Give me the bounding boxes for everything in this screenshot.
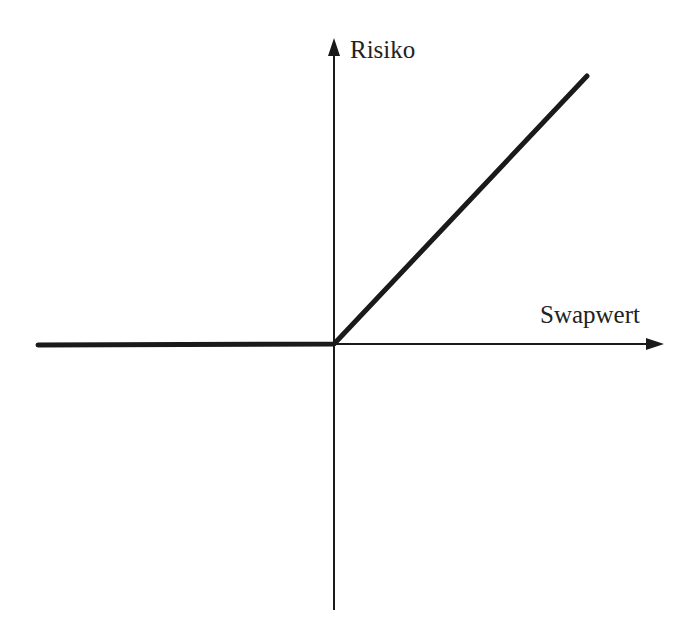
y-axis-arrow-icon (328, 38, 340, 56)
y-axis-label: Risiko (350, 36, 415, 64)
x-axis-label: Swapwert (540, 301, 640, 329)
x-axis-arrow-icon (646, 338, 664, 350)
risk-curve (38, 76, 587, 345)
